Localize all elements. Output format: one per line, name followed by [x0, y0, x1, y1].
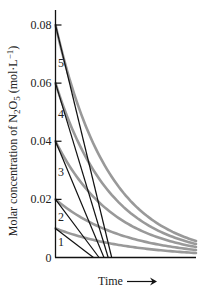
decay-curve-4: [56, 83, 197, 244]
y-tick-label: 0: [46, 251, 52, 265]
y-tick-label: 0.06: [31, 76, 52, 90]
y-axis-label: Molar concentration of N2O5 (mol·L−1): [5, 46, 22, 237]
curve-label-1: 1: [58, 235, 64, 249]
y-tick-label: 0.04: [31, 134, 52, 148]
y-tick-label: 0.02: [31, 192, 52, 206]
curve-label-3: 3: [58, 165, 64, 179]
decay-curves: [56, 25, 197, 253]
curve-label-4: 4: [58, 107, 64, 121]
x-axis-label: Time: [98, 274, 123, 288]
arrow-right-icon: [127, 278, 157, 286]
curve-label-2: 2: [58, 210, 64, 224]
curve-label-5: 5: [58, 56, 64, 70]
chart: 00.020.040.060.08 12345 Molar concentrat…: [0, 0, 203, 297]
y-tick-label: 0.08: [31, 18, 52, 32]
y-ticks: 00.020.040.060.08: [31, 18, 62, 265]
